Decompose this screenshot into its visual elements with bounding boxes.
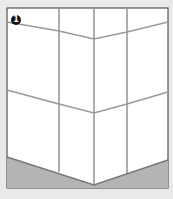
step-badge: 1 bbox=[11, 15, 21, 25]
tile-drawing bbox=[0, 0, 173, 199]
tile-corner-illustration: 1 bbox=[0, 0, 173, 199]
